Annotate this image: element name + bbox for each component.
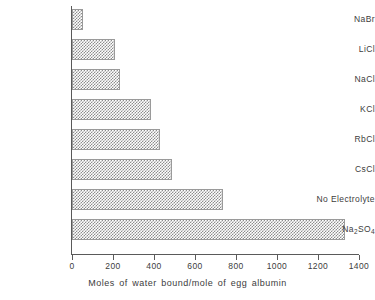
x-tick-label-1000: 1000 [267, 261, 288, 271]
x-tick-mark [277, 255, 278, 260]
bar-no-electrolyte[interactable] [72, 189, 223, 210]
x-tick-mark [318, 255, 319, 260]
bar-na2so4[interactable] [72, 219, 345, 240]
bar-kcl[interactable] [72, 99, 151, 120]
y-tick-label-kcl: KCl [307, 104, 375, 114]
x-tick-mark [113, 255, 114, 260]
x-tick-label-0: 0 [69, 261, 74, 271]
x-axis-line [71, 254, 359, 255]
x-tick-label-400: 400 [146, 261, 161, 271]
y-tick-label-na2so4: Na2SO4 [307, 224, 375, 235]
x-axis-title: Moles of water bound/mole of egg albumin [0, 278, 375, 288]
x-tick-mark [72, 255, 73, 260]
bar-licl[interactable] [72, 39, 115, 60]
x-tick-mark [236, 255, 237, 260]
y-tick-label-nacl: NaCl [307, 74, 375, 84]
bar-cscl[interactable] [72, 159, 172, 180]
x-tick-mark [195, 255, 196, 260]
bar-chart-figure: NaBrLiClNaClKClRbClCsClNo ElectrolyteNa2… [0, 0, 375, 300]
y-tick-label-no-electrolyte: No Electrolyte [307, 194, 375, 204]
x-tick-mark [359, 255, 360, 260]
y-tick-label-rbcl: RbCl [307, 134, 375, 144]
x-tick-label-1200: 1200 [308, 261, 329, 271]
bar-nacl[interactable] [72, 69, 120, 90]
x-tick-label-1400: 1400 [349, 261, 370, 271]
y-tick-label-cscl: CsCl [307, 164, 375, 174]
x-tick-mark [154, 255, 155, 260]
y-tick-label-nabr: NaBr [307, 14, 375, 24]
x-tick-label-600: 600 [187, 261, 202, 271]
x-tick-label-800: 800 [228, 261, 243, 271]
y-tick-label-licl: LiCl [307, 44, 375, 54]
x-tick-label-200: 200 [105, 261, 120, 271]
bar-rbcl[interactable] [72, 129, 160, 150]
bar-nabr[interactable] [72, 9, 83, 30]
